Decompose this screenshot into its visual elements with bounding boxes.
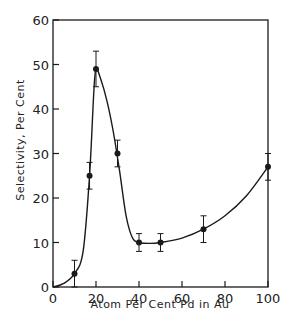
point-marker xyxy=(265,164,271,170)
x-tick-label: 100 xyxy=(256,291,281,306)
selectivity-chart: 0102030405060 020406080100 Atom Per Cent… xyxy=(0,0,289,326)
y-axis-ticks: 0102030405060 xyxy=(32,13,59,295)
point-marker xyxy=(136,240,142,246)
y-tick-label: 40 xyxy=(32,102,49,117)
point-marker xyxy=(158,240,164,246)
point-marker xyxy=(87,173,93,179)
point-marker xyxy=(72,271,78,277)
y-tick-label: 50 xyxy=(32,58,49,73)
data-point xyxy=(201,216,207,243)
y-tick-label: 0 xyxy=(41,280,49,295)
data-point xyxy=(87,162,93,189)
fit-curve xyxy=(53,68,268,287)
data-point xyxy=(136,234,142,252)
y-tick-label: 30 xyxy=(32,147,49,162)
x-axis-title: Atom Per Cent Pd in Au xyxy=(91,298,230,311)
y-axis-title: Selectivity, Per Cent xyxy=(14,79,27,201)
data-points xyxy=(72,51,272,287)
point-marker xyxy=(93,66,99,72)
point-marker xyxy=(201,226,207,232)
y-tick-label: 20 xyxy=(32,191,49,206)
y-tick-label: 60 xyxy=(32,13,49,28)
data-point xyxy=(158,234,164,252)
data-point xyxy=(72,260,78,287)
data-point xyxy=(265,154,271,181)
point-marker xyxy=(115,151,121,157)
y-tick-label: 10 xyxy=(32,236,49,251)
x-tick-label: 0 xyxy=(49,291,57,306)
fit-curve-line xyxy=(53,68,268,287)
